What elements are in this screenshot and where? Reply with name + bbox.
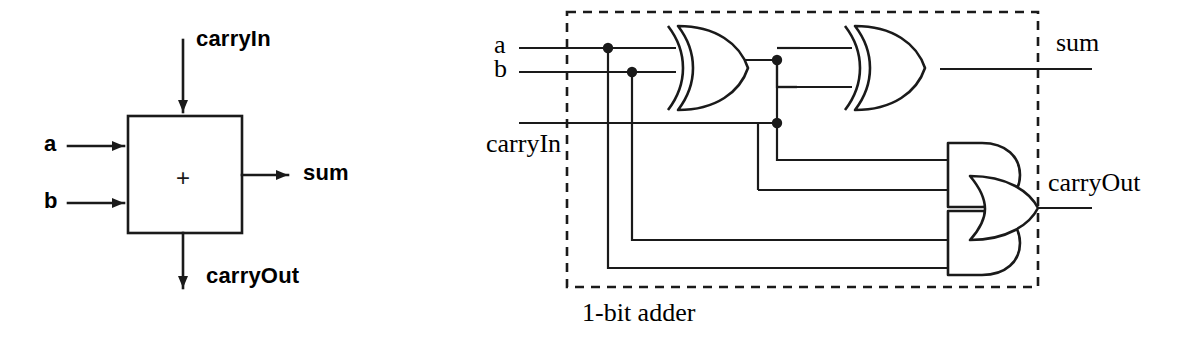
xor2-gate-body [855,26,925,110]
gate-input-label-carryin: carryIn [486,129,561,159]
junction-dot-a [603,43,613,53]
wire-to-xor2-lower [777,60,800,87]
xor1-gate-body [678,26,748,110]
junction-dot-xor1-out [772,55,782,65]
gate-diagram-caption: 1-bit adder [582,298,695,328]
gate-input-label-b: b [494,54,507,84]
wire-carryin-to-and1 [777,123,812,160]
junction-dot-carryin [772,118,782,128]
junction-dot-b [627,67,637,77]
xor2-gate-arc [845,26,860,110]
block-input-label-carryin: carryIn [196,26,271,52]
block-input-label-b: b [44,188,58,214]
block-input-label-a: a [44,131,56,157]
gate-output-label-sum: sum [1056,28,1099,58]
block-output-label-sum: sum [303,160,349,186]
figure-canvas: + [0,0,1180,352]
gates-group [668,26,1038,275]
gate-output-label-carryout: carryOut [1048,168,1140,198]
plus-operator-glyph: + [176,164,190,191]
block-output-label-carryout: carryOut [206,263,299,289]
xor1-gate-arc [668,26,683,110]
